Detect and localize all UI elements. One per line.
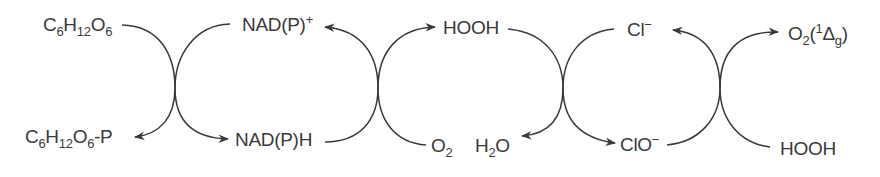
hooh-bottom-main: HOOH xyxy=(780,138,836,159)
cl-main: Cl xyxy=(627,19,644,40)
glucose-sub-6b: 6 xyxy=(105,24,112,39)
glucosep-sub-12: 12 xyxy=(59,136,73,151)
h2o-h: H xyxy=(475,135,488,156)
arrow-nadp-to-nadph xyxy=(175,24,230,139)
arrow-clo-to-cl xyxy=(667,30,720,145)
arrow-cl-to-clo xyxy=(563,29,615,143)
label-hypochlorite: ClO− xyxy=(620,135,659,154)
label-o2: O2 xyxy=(431,136,452,155)
nadp-main: NAD(P) xyxy=(242,14,306,35)
arrow-nadph-to-nadp xyxy=(325,27,378,142)
arrow-glucose-to-glucose-p xyxy=(122,25,175,137)
label-h2o: H2O xyxy=(475,136,510,155)
reaction-cycle-diagram: C6H12O6 C6H12O6-P NAD(P)+ NAD(P)H HOOH O… xyxy=(0,0,880,177)
o2-o: O xyxy=(431,135,445,156)
so2-delta: Δ xyxy=(822,23,834,44)
label-singlet-oxygen: O2(1Δg) xyxy=(788,24,848,43)
glucosep-h: H xyxy=(45,126,58,147)
so2-gerade: g xyxy=(835,33,842,48)
label-glucose: C6H12O6 xyxy=(43,15,112,34)
h2o-o: O xyxy=(495,135,509,156)
label-glucose-phosphate: C6H12O6-P xyxy=(25,127,112,146)
label-hooh-top: HOOH xyxy=(443,18,499,37)
label-chloride: Cl− xyxy=(627,20,652,39)
cl-charge: − xyxy=(644,17,651,32)
arrow-hooh-to-singlet-o2 xyxy=(720,32,778,147)
nadph-main: NAD(P)H xyxy=(235,129,312,150)
glucosep-phosphate: -P xyxy=(94,126,112,147)
clo-charge: − xyxy=(652,132,659,147)
glucose-sub-12: 12 xyxy=(77,24,91,39)
o2-sub: 2 xyxy=(445,145,452,160)
clo-main: ClO xyxy=(620,134,652,155)
arrow-hooh-to-h2o xyxy=(508,29,563,136)
label-nadph: NAD(P)H xyxy=(235,130,312,149)
glucose-h: H xyxy=(63,14,76,35)
nadp-charge: + xyxy=(306,12,313,27)
hooh-top-main: HOOH xyxy=(443,17,499,38)
arrow-o2-to-hooh xyxy=(378,27,435,145)
glucose-c: C xyxy=(43,14,56,35)
label-nadp-plus: NAD(P)+ xyxy=(242,15,313,34)
glucosep-o: O xyxy=(73,126,87,147)
label-hooh-bottom: HOOH xyxy=(780,139,836,158)
so2-close-paren: ) xyxy=(842,23,848,44)
glucosep-c: C xyxy=(25,126,38,147)
glucose-o: O xyxy=(91,14,105,35)
so2-o: O xyxy=(788,23,802,44)
